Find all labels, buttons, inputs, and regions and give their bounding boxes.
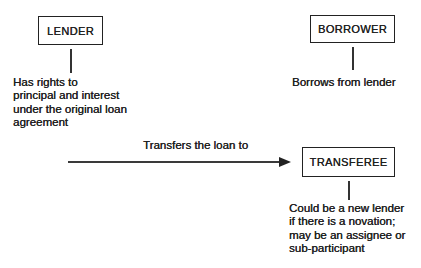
transferee-note: Could be a new lender if there is a nova… (289, 202, 421, 256)
transferee-box: TRANSFEREE (302, 147, 395, 177)
lender-connector-line (70, 49, 72, 73)
loan-transfer-diagram: LENDER Has rights to principal and inter… (0, 0, 421, 268)
transfer-arrow-line (68, 161, 280, 163)
lender-box-label: LENDER (47, 25, 94, 37)
borrower-note: Borrows from lender (292, 76, 417, 89)
borrower-connector-line (352, 47, 354, 70)
lender-box: LENDER (38, 16, 103, 45)
transferee-connector-line (348, 181, 350, 200)
borrower-box: BORROWER (310, 15, 395, 43)
lender-note: Has rights to principal and interest und… (13, 76, 178, 130)
transferee-box-label: TRANSFEREE (310, 156, 388, 168)
transfer-arrowhead-icon (279, 157, 291, 167)
borrower-box-label: BORROWER (318, 23, 387, 35)
transfer-edge-label: Transfers the loan to (143, 139, 248, 151)
